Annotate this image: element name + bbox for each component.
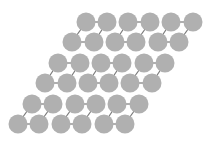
atom-circle <box>184 13 203 32</box>
atom-circle <box>63 33 82 52</box>
atom-circle <box>92 54 111 73</box>
atom-circle <box>44 95 63 114</box>
atom-circle <box>71 54 90 73</box>
atom-circle <box>121 74 140 93</box>
atom-circle <box>87 95 106 114</box>
atom-circle <box>156 54 175 73</box>
atom-circle <box>130 95 149 114</box>
atom-circle <box>95 115 114 134</box>
atom-circle <box>119 13 138 32</box>
atom-circle <box>127 33 146 52</box>
atom-circle <box>58 74 77 93</box>
atom-circle <box>73 115 92 134</box>
atom-circle <box>116 115 135 134</box>
atom-circle <box>170 33 189 52</box>
atom-circle <box>85 33 104 52</box>
atom-circle <box>106 33 125 52</box>
atom-lattice-diagram <box>0 0 215 145</box>
atom-circle <box>143 74 162 93</box>
atom-circle <box>135 54 154 73</box>
atom-circle <box>49 54 68 73</box>
atom-circle <box>113 54 132 73</box>
atom-circle <box>52 115 71 134</box>
atom-circle <box>79 74 98 93</box>
atom-circle <box>30 115 49 134</box>
atom-circle <box>149 33 168 52</box>
atom-circle <box>9 115 28 134</box>
atom-circle <box>23 95 42 114</box>
atom-circle <box>66 95 85 114</box>
atom-circle <box>162 13 181 32</box>
atom-circle <box>98 13 117 32</box>
atom-circle <box>77 13 96 32</box>
atom-circle <box>141 13 160 32</box>
atom-circle <box>100 74 119 93</box>
atom-circle <box>108 95 127 114</box>
atom-circle <box>36 74 55 93</box>
